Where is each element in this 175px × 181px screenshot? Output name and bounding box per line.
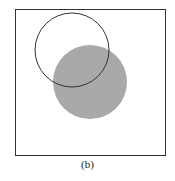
venn-figure — [0, 0, 175, 181]
figure-caption: (b) — [0, 158, 175, 170]
